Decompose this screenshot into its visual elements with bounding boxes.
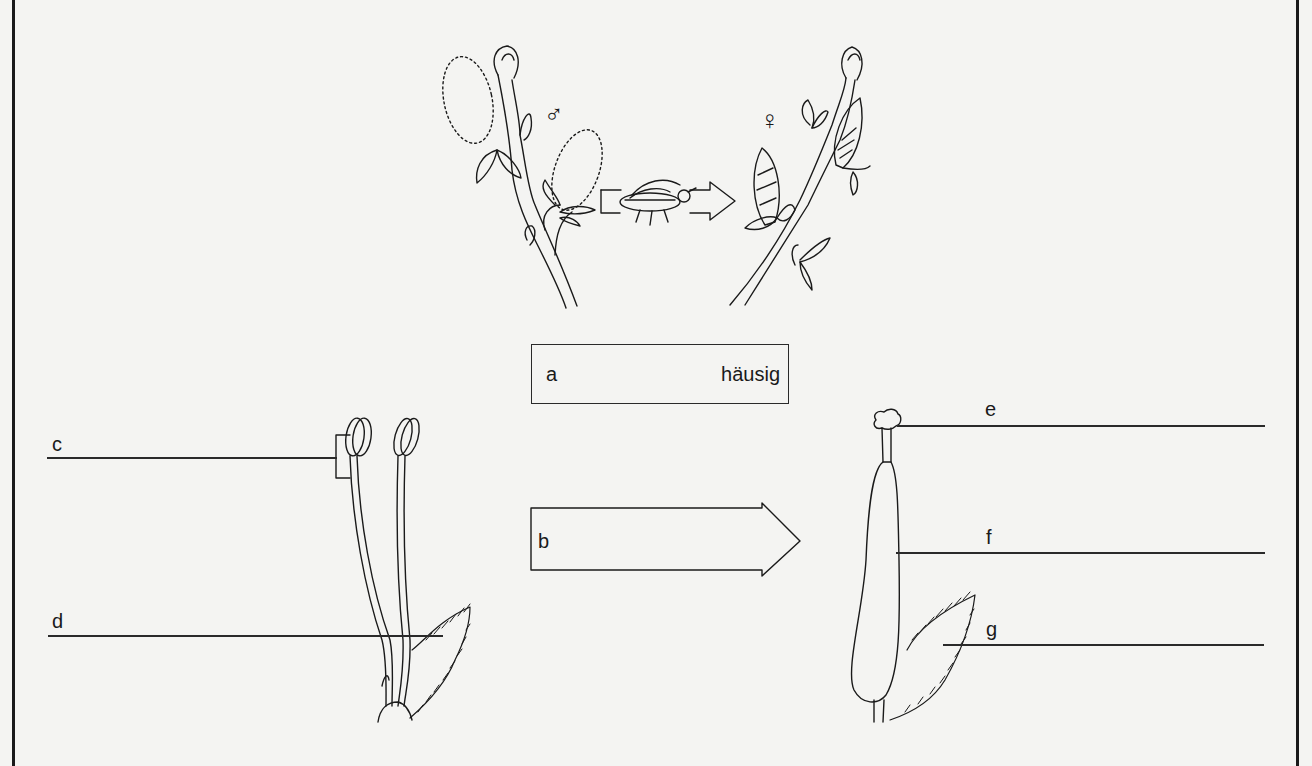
arrow-b-label: b <box>538 530 549 553</box>
bee-icon <box>620 180 696 225</box>
label-e: e <box>985 399 996 419</box>
label-g-line <box>943 644 1264 646</box>
label-g: g <box>986 619 997 639</box>
arrow-b-shape <box>531 503 800 576</box>
box-a-label: a <box>546 363 557 386</box>
box-a-answer-field: a häusig <box>531 344 789 404</box>
pistil-drawing <box>852 409 975 722</box>
label-c-line <box>47 457 337 459</box>
male-branch-drawing <box>435 46 612 308</box>
male-symbol-icon: ♂ <box>544 101 564 127</box>
label-d-line <box>48 635 443 637</box>
label-f: f <box>986 527 992 547</box>
label-d: d <box>52 611 63 631</box>
female-branch-drawing <box>730 47 870 305</box>
label-e-line <box>897 425 1265 427</box>
label-c: c <box>52 434 62 454</box>
stamen-drawing <box>336 417 470 722</box>
pollinator-transfer-arrow <box>601 182 735 220</box>
female-symbol-icon: ♀ <box>760 107 780 133</box>
label-f-line <box>896 552 1265 554</box>
box-a-value: häusig <box>721 363 780 386</box>
